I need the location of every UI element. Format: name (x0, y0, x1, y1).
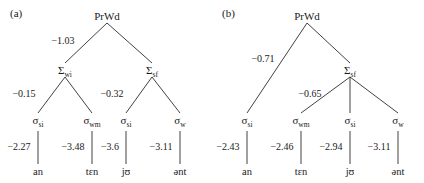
weight-s1-leaf: −2.43 (216, 142, 239, 152)
root-node-prwd: PrWd (294, 11, 320, 22)
weight-s4-leaf: −3.11 (368, 142, 391, 152)
node-foot-sf: Σsf (344, 65, 356, 76)
weight-s1-leaf: −2.27 (7, 142, 30, 152)
node-syll-1: σsi (33, 115, 44, 126)
root-node-prwd: PrWd (94, 11, 120, 22)
edge-footwi-s1 (38, 77, 65, 113)
node-syll-2: σwm (83, 115, 100, 126)
node-syll-1: σsi (242, 115, 253, 126)
weight-s2-leaf: −3.48 (61, 142, 84, 152)
weight-footsf-s2: −0.65 (298, 89, 321, 99)
weight-footwi-s1: −0.15 (12, 89, 35, 99)
prosodic-tree-figure: (a) PrWdΣwiΣsfσsiσwmσsiσwantɛnjʊənt−1.03… (0, 0, 424, 183)
edge-root-footsf (307, 23, 350, 63)
edge-footsf-s4 (350, 77, 398, 113)
leaf-ju: jʊ (122, 167, 131, 178)
node-syll-2: σwm (292, 115, 309, 126)
panel-a-label: (a) (10, 7, 22, 19)
leaf-ju: jʊ (346, 167, 355, 178)
leaf-an: an (33, 167, 43, 178)
node-foot-sf: Σsf (146, 65, 158, 76)
weight-s2-leaf: −2.46 (270, 142, 293, 152)
panel-b-label: (b) (222, 7, 235, 19)
node-syll-4: σw (392, 115, 403, 126)
panel-b: (b) PrWdΣsfσsiσwmσsiσwantɛnjʊənt−0.71−0.… (212, 0, 424, 183)
node-syll-3: σsi (121, 115, 132, 126)
edge-footsf-s4 (152, 77, 180, 113)
weight-s3-leaf: −2.94 (319, 142, 342, 152)
weight-footsf-s3: −0.32 (100, 89, 123, 99)
panel-a: (a) PrWdΣwiΣsfσsiσwmσsiσwantɛnjʊənt−1.03… (0, 0, 212, 183)
weight-s3-leaf: −3.6 (101, 142, 119, 152)
leaf-ten: tɛn (295, 167, 308, 178)
node-syll-3: σsi (345, 115, 356, 126)
edge-footsf-s3 (126, 77, 152, 113)
weight-s4-leaf: −3.11 (150, 142, 173, 152)
leaf-ten: tɛn (86, 167, 99, 178)
weight-root-footwi: −1.03 (51, 36, 74, 46)
node-syll-4: σw (174, 115, 185, 126)
node-foot-wi: Σwi (58, 65, 72, 76)
leaf-ent: ənt (392, 167, 405, 178)
weight-root-s1: −0.71 (251, 54, 274, 64)
leaf-an: an (242, 167, 252, 178)
leaf-ent: ənt (174, 167, 187, 178)
edge-root-footsf (107, 23, 152, 63)
edge-footwi-s2 (65, 77, 92, 113)
edge-root-s1 (247, 23, 307, 113)
